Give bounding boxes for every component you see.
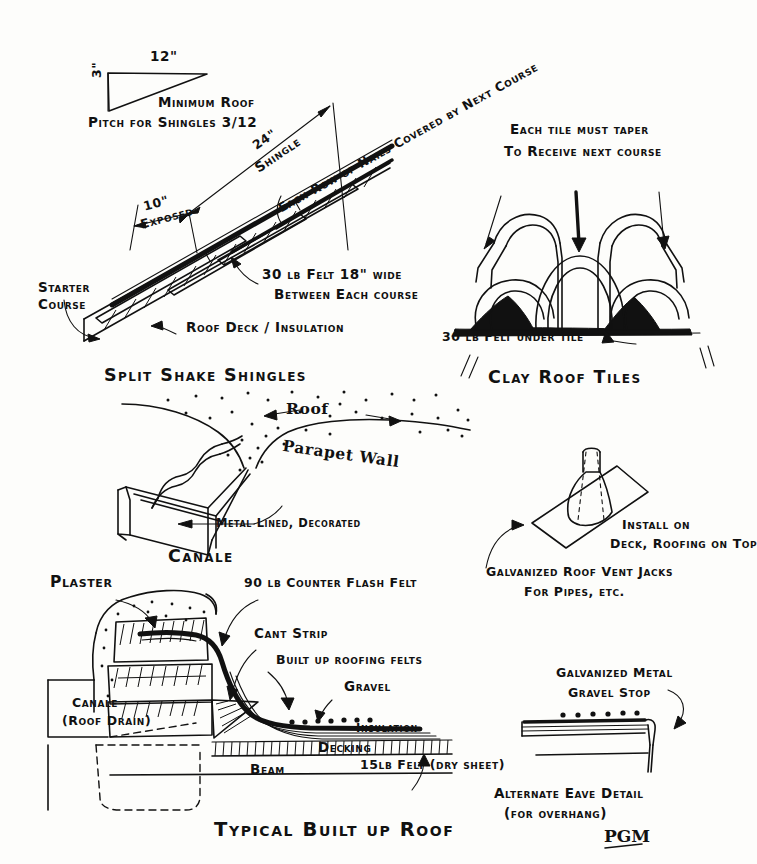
pitch-caption-line2: Pitch for Shingles 3/12 — [88, 115, 257, 131]
pitch-run-label: 12" — [150, 49, 178, 65]
shingle-section-figure — [64, 103, 392, 342]
vent-caption-line2: For Pipes, etc. — [524, 585, 625, 600]
eave-caption-line1: Alternate Eave Detail — [494, 786, 644, 802]
signature: PGM — [604, 826, 650, 846]
eave-caption-line2: (for overhang) — [504, 806, 607, 822]
canale-roof-label: Roof — [286, 400, 329, 418]
shingle-felt-note-line1: 30 lb Felt 18" wide — [262, 267, 402, 283]
plaster-label: Plaster — [50, 573, 113, 591]
pitch-rise-label: 3" — [90, 62, 105, 78]
canale-drain-line2: (Roof Drain) — [62, 714, 151, 729]
shingle-deck-note: Roof Deck / Insulation — [186, 320, 344, 336]
built-up-felts-label: Built up roofing felts — [276, 653, 423, 668]
clay-taper-note-line2: To Receive next course — [504, 144, 662, 160]
pitch-caption-line1: Minimum Roof — [158, 95, 255, 111]
counterflash-label: 90 lb Counter Flash Felt — [244, 576, 417, 591]
canale-drain-line1: Canale — [72, 696, 118, 711]
drawing-sheet: 12" 3" Minimum Roof Pitch for Shingles 3… — [0, 0, 757, 864]
canale-metal-label: Metal Lined, Decorated — [216, 517, 361, 531]
vent-install-line1: Install on — [622, 518, 690, 533]
gravel-stop-line1: Galvanized Metal — [556, 666, 673, 681]
decking-label: Decking — [318, 740, 371, 756]
dry-sheet-label: 15lb Felt (dry sheet) — [360, 758, 505, 773]
vent-caption-line1: Galvanized Roof Vent Jacks — [486, 565, 673, 580]
clay-taper-note-line1: Each tile must taper — [510, 122, 649, 138]
clay-felt-note: 30 lb Felt under tile — [442, 330, 584, 345]
eave-detail-figure — [522, 690, 686, 848]
clay-roof-tiles-title: Clay Roof Tiles — [488, 367, 641, 388]
gravel-stop-line2: Gravel Stop — [568, 686, 651, 701]
starter-course-line2: Course — [38, 297, 86, 313]
starter-course-line1: Starter — [38, 280, 90, 296]
vent-install-line2: Deck, Roofing on Top — [610, 537, 757, 552]
insulation-label: Insulation — [356, 722, 418, 736]
split-shake-shingles-title: Split Shake Shingles — [104, 365, 307, 386]
cant-strip-label: Cant Strip — [254, 626, 328, 642]
gravel-label: Gravel — [344, 679, 391, 695]
beam-label: Beam — [250, 762, 285, 778]
canale-title: Canale — [168, 546, 234, 567]
clay-tiles-figure — [452, 192, 714, 378]
built-up-roof-title: Typical Built up Roof — [214, 818, 455, 841]
shingle-felt-note-line2: Between Each course — [274, 287, 419, 303]
